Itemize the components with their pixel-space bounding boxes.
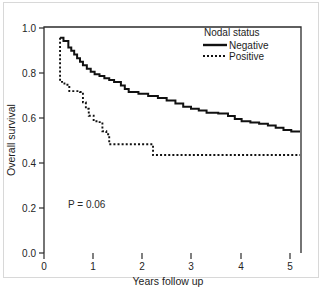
- y-tick-label-1.0: 1.0: [22, 23, 36, 34]
- legend: Nodal status Negative Positive: [203, 27, 269, 62]
- x-axis-ticks: [44, 253, 290, 259]
- x-tick-label-0: 0: [41, 261, 47, 272]
- x-tick-label-5: 5: [287, 261, 293, 272]
- survival-curve-negative: [60, 38, 300, 132]
- x-tick-label-2: 2: [139, 261, 145, 272]
- y-axis-title: Overall survival: [5, 104, 17, 176]
- y-tick-label-0.2: 0.2: [22, 203, 36, 214]
- survival-curve-positive: [60, 38, 300, 155]
- y-tick-label-0.0: 0.0: [22, 248, 36, 259]
- x-tick-label-1: 1: [90, 261, 96, 272]
- y-axis-ticks: [39, 28, 44, 253]
- survival-chart-figure: 1.0 0.8 0.6 0.4 0.2 0.0 0 1 2 3 4 5 Year…: [0, 0, 322, 292]
- x-tick-label-3: 3: [188, 261, 194, 272]
- x-axis-tick-labels: 0 1 2 3 4 5: [41, 261, 293, 272]
- y-tick-label-0.6: 0.6: [22, 113, 36, 124]
- legend-title: Nodal status: [204, 27, 260, 38]
- x-axis-title: Years follow up: [133, 275, 204, 287]
- y-tick-label-0.8: 0.8: [22, 68, 36, 79]
- legend-label-positive: Positive: [229, 51, 264, 62]
- p-value-annotation: P = 0.06: [68, 199, 106, 210]
- y-tick-label-0.4: 0.4: [22, 158, 36, 169]
- chart-canvas: 1.0 0.8 0.6 0.4 0.2 0.0 0 1 2 3 4 5 Year…: [0, 0, 322, 292]
- y-axis-tick-labels: 1.0 0.8 0.6 0.4 0.2 0.0: [22, 23, 36, 259]
- x-tick-label-4: 4: [238, 261, 244, 272]
- legend-label-negative: Negative: [229, 40, 269, 51]
